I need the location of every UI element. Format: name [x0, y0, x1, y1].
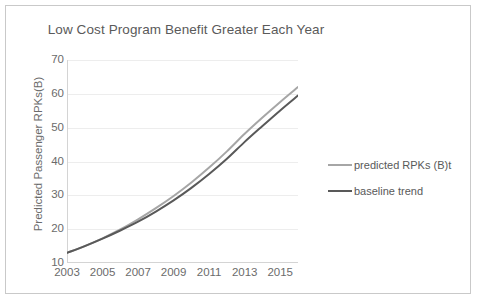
x-tick-label: 2005 — [90, 267, 116, 279]
legend-color-swatch — [328, 164, 352, 166]
chart-legend: predicted RPKs (B)tbaseline trend — [328, 152, 470, 204]
x-tick-label: 2007 — [125, 267, 151, 279]
x-tick-label: 2009 — [161, 267, 187, 279]
y-tick-label: 40 — [38, 156, 64, 168]
series-lines — [67, 87, 298, 253]
series-line — [67, 87, 298, 253]
y-axis-tick-labels: 10203040506070 — [36, 6, 64, 295]
x-tick-label: 2011 — [197, 267, 222, 279]
legend-label: predicted RPKs (B)t — [354, 159, 451, 171]
x-tick-label: 2015 — [267, 267, 293, 279]
legend-item[interactable]: predicted RPKs (B)t — [328, 152, 470, 178]
x-axis-tick-labels: 2003200520072009201120132015 — [67, 267, 298, 285]
y-tick-label: 20 — [38, 223, 64, 235]
plot-area — [67, 60, 298, 263]
y-tick-label: 50 — [38, 122, 64, 134]
y-tick-label: 30 — [38, 189, 64, 201]
line-chart-svg — [67, 60, 298, 263]
chart-frame: Low Cost Program Benefit Greater Each Ye… — [5, 5, 471, 294]
x-tick-label: 2013 — [232, 267, 258, 279]
legend-item[interactable]: baseline trend — [328, 178, 470, 204]
y-tick-label: 70 — [38, 54, 64, 66]
legend-label: baseline trend — [354, 185, 423, 197]
y-tick-label: 60 — [38, 88, 64, 100]
gridlines — [67, 61, 298, 230]
legend-color-swatch — [328, 190, 352, 192]
axis-lines — [67, 60, 298, 263]
x-tick-label: 2003 — [54, 267, 80, 279]
